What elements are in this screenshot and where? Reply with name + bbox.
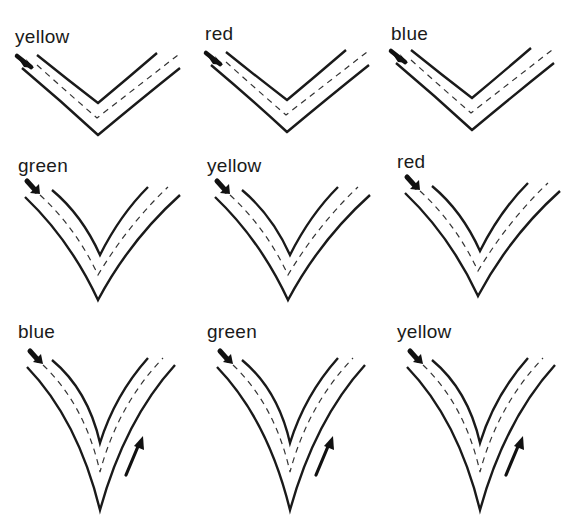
panel-r3c1: [27, 351, 175, 510]
panel-r2c3: [405, 177, 560, 296]
panel-r2c2: [215, 181, 370, 300]
panel-r1c1: [16, 53, 180, 135]
diagram-stage: yellow red blue green yellow red blue gr…: [0, 0, 569, 523]
panel-r2c1: [25, 181, 180, 300]
panel-r3c2: [217, 351, 365, 510]
panel-r1c3: [390, 48, 554, 130]
panel-r3c3: [407, 351, 555, 510]
road-diagram-svg: [0, 0, 569, 523]
panel-r1c2: [205, 50, 369, 132]
